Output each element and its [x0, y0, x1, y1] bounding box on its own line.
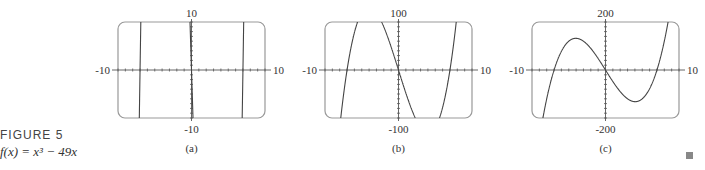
- panel-a-ymin-label: -10: [184, 123, 199, 135]
- panel-a-xmin-label: -10: [95, 64, 110, 76]
- panel-b-caption: (b): [392, 142, 405, 155]
- figure-label: FIGURE 5: [0, 128, 63, 142]
- panel-b-xmax-label: 10: [480, 64, 492, 76]
- panel-b-ymin-label: -100: [388, 123, 409, 135]
- panel-c-xmax-label: 10: [687, 64, 699, 76]
- panel-b-xmin-label: -10: [302, 64, 317, 76]
- panel-c-ymax-label: 200: [597, 7, 614, 19]
- panel-c-caption: (c): [599, 142, 612, 155]
- figure-function: f(x) = x³ − 49x: [0, 144, 77, 160]
- panel-a-ymax-label: 10: [186, 7, 198, 19]
- panel-c-ymin-label: -200: [595, 123, 616, 135]
- figure-canvas: -101010-10(a)-1010100-100(b)-1010200-200…: [0, 0, 705, 170]
- panel-b-ymax-label: 100: [390, 7, 407, 19]
- panel-a-caption: (a): [185, 142, 198, 155]
- panel-a-xmax-label: 10: [273, 64, 285, 76]
- end-of-example-mark: [686, 152, 693, 159]
- panel-c-xmin-label: -10: [509, 64, 524, 76]
